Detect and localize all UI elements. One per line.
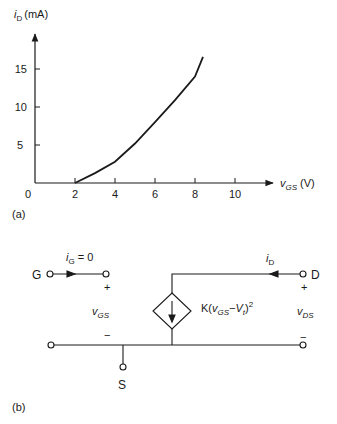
chart-a: iD(mA) 5 10 15 0 2 4 6 8 10 vGS(V) (a) [12,8,315,220]
drain-terminal [300,271,306,277]
vgs-plus: + [104,281,110,293]
ig-label: iG = 0 [66,251,93,266]
gate-label: G [32,268,41,282]
mosfet-figure: iD(mA) 5 10 15 0 2 4 6 8 10 vGS(V) (a) [0,0,337,424]
source-label: S [118,378,126,392]
drain-wire [172,274,300,293]
y-tick-15: 15 [15,63,27,75]
caption-a: (a) [12,208,25,220]
y-tick-10: 10 [15,101,27,113]
vds-label: vDS [297,305,314,320]
y-tick-5: 5 [17,139,23,151]
x-tick-6: 6 [152,188,158,200]
id-arrow-icon [270,271,278,277]
circuit-b [47,271,306,370]
y-axis-label: iD(mA) [14,8,48,23]
vgs-label: vGS [92,305,110,320]
x-tick-4: 4 [112,188,118,200]
origin-label: 0 [25,188,31,200]
x-ticks [75,178,235,183]
ig-arrow-icon [67,271,75,277]
x-tick-8: 8 [192,188,198,200]
source-terminal [120,364,126,370]
x-tick-10: 10 [229,188,241,200]
bottom-left-terminal [48,342,54,348]
caption-b: (b) [12,401,25,413]
id-label: iD [266,252,274,267]
vgs-minus: − [104,329,110,341]
source-expression: K(vGS−Vt)2 [201,300,254,317]
x-axis-label: vGS(V) [280,177,315,192]
y-ticks [35,69,40,145]
vds-minus: − [300,331,306,343]
gate-terminal-outer [47,271,53,277]
gate-terminal-inner [103,271,109,277]
id-vgs-curve [75,57,203,183]
vds-plus: + [301,281,307,293]
x-tick-2: 2 [72,188,78,200]
drain-label: D [311,268,320,282]
